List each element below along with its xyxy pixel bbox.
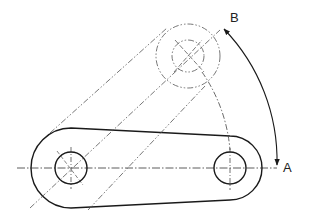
rotation-arrow-arc <box>224 29 277 165</box>
point-a-label: A <box>283 161 292 174</box>
point-b-label: B <box>230 11 239 24</box>
link-rotation-drawing <box>0 0 309 221</box>
hole-travel-arc <box>202 72 230 150</box>
phantom-link-at-b <box>30 24 220 210</box>
